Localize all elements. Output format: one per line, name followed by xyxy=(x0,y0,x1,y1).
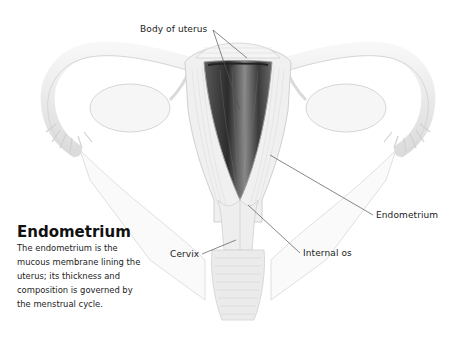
label-endometrium: Endometrium xyxy=(376,210,438,220)
left-ovary xyxy=(90,84,170,132)
caption-title: Endometrium xyxy=(17,223,131,241)
cervix xyxy=(218,198,258,250)
label-cervix: Cervix xyxy=(170,249,199,259)
label-body-of-uterus: Body of uterus xyxy=(140,24,207,34)
vagina xyxy=(211,250,264,320)
right-ovary xyxy=(306,84,386,132)
label-internal-os: Internal os xyxy=(303,248,352,258)
caption-text: The endometrium is the mucous membrane l… xyxy=(17,241,147,311)
